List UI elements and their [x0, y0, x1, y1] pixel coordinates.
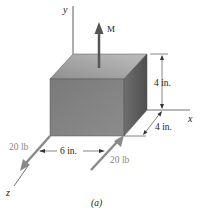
- z-axis: z: [5, 166, 28, 198]
- z-axis-label: z: [5, 187, 10, 198]
- width-label: 6 in.: [60, 146, 77, 156]
- y-axis: y: [62, 4, 73, 54]
- block-front-face: [50, 79, 124, 136]
- force-label-left: 20 lb: [9, 142, 29, 152]
- width-dimension: 6 in.: [39, 146, 105, 156]
- force-arrow-left: 20 lb: [9, 136, 50, 171]
- figure-caption: (a): [91, 198, 102, 209]
- arrowhead-icon: [95, 22, 104, 34]
- y-axis-label: y: [62, 4, 68, 15]
- moment-label: M: [107, 24, 115, 34]
- force-label-right: 20 lb: [110, 155, 130, 165]
- x-axis-label: x: [187, 113, 193, 124]
- height-dimension: 4 in.: [150, 54, 171, 109]
- statics-diagram: y M 4 in. x 4 in. z 2: [0, 0, 200, 210]
- height-label: 4 in.: [154, 78, 171, 88]
- force-arrow-right: 20 lb: [91, 135, 130, 170]
- depth-label: 4 in.: [155, 122, 172, 132]
